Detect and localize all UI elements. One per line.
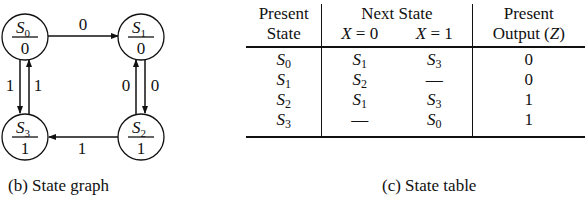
cell-next-x1: S3 — [397, 47, 472, 70]
state-output-s1: 0 — [137, 39, 146, 58]
state-table: Present Next State Present State X = 0 X… — [246, 4, 585, 138]
cell-next-x1: S3 — [397, 90, 472, 110]
edge-label-s0-s1: 0 — [79, 15, 88, 34]
table-row: S3 — S0 1 — [246, 110, 585, 137]
header-x0: X = 0 — [322, 24, 397, 47]
cell-present: S3 — [246, 110, 322, 137]
cell-next-x1: — — [397, 70, 472, 90]
edge-label-s1-s2: 0 — [151, 76, 160, 95]
header-next-state: Next State — [322, 4, 472, 24]
cell-output: 1 — [472, 110, 585, 137]
cell-output: 0 — [472, 47, 585, 70]
cell-output: 1 — [472, 90, 585, 110]
cell-next-x1: S0 — [397, 110, 472, 137]
header-output-1: Present — [472, 4, 585, 24]
cell-present: S1 — [246, 70, 322, 90]
cell-next-x0: — — [322, 110, 397, 137]
state-table-caption: (c) State table — [382, 176, 476, 196]
edge-label-s0-s3: 1 — [6, 76, 15, 95]
cell-present: S2 — [246, 90, 322, 110]
cell-output: 0 — [472, 70, 585, 90]
header-present-state-2: State — [246, 24, 322, 47]
cell-next-x0: S2 — [322, 70, 397, 90]
header-present-state-1: Present — [246, 4, 322, 24]
state-output-s0: 0 — [21, 39, 30, 58]
header-output-2: Output (Z) — [472, 24, 585, 47]
state-output-s2: 1 — [137, 139, 146, 158]
edge-label-s2-s1: 0 — [122, 76, 131, 95]
state-output-s3: 1 — [21, 139, 30, 158]
state-graph: S0 0 S1 0 S3 1 S2 1 0 1 1 1 0 0 — [0, 0, 200, 204]
cell-next-x0: S1 — [322, 90, 397, 110]
edge-label-s3-s0: 1 — [34, 76, 43, 95]
table-row: S0 S1 S3 0 — [246, 47, 585, 70]
edge-label-s2-s3: 1 — [78, 139, 87, 158]
header-x1: X = 1 — [397, 24, 472, 47]
cell-present: S0 — [246, 47, 322, 70]
table-row: S1 S2 — 0 — [246, 70, 585, 90]
table-row: S2 S1 S3 1 — [246, 90, 585, 110]
state-graph-caption: (b) State graph — [8, 176, 109, 196]
cell-next-x0: S1 — [322, 47, 397, 70]
